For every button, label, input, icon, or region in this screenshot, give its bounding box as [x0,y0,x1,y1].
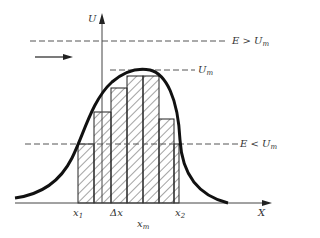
x-axis-arrow-icon [262,200,272,206]
y-axis-arrow-icon [99,13,105,24]
barrier-slice [174,144,179,203]
barrier-slice [111,88,127,203]
delta-x-label: Δx [110,208,123,218]
high-energy-label: E > Um [232,36,269,48]
x-axis-label: X [258,208,265,218]
peak-level-label: Um [198,65,213,77]
barrier-slice [159,119,174,203]
barrier-slice [127,76,143,203]
xm-marker-label: xm [137,219,149,231]
low-energy-label: E < Um [240,139,277,151]
barrier-slices [78,76,179,203]
incident-arrow-head-icon [63,54,73,60]
barrier-slice [78,144,94,203]
x2-marker-label: x2 [175,208,185,220]
barrier-slice [143,76,159,203]
y-axis-label: U [88,14,96,24]
x1-marker-label: x1 [73,208,83,220]
